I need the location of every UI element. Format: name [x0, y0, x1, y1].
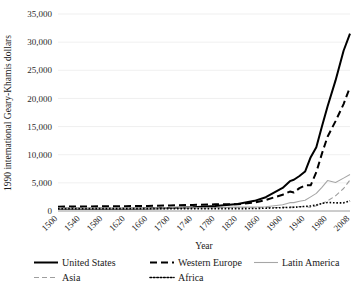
x-tick-label: 1820 — [219, 213, 239, 233]
legend-entry-africa[interactable]: Africa — [150, 272, 204, 283]
legend-label: Latin America — [282, 257, 340, 268]
gridlines — [58, 14, 350, 183]
y-tick-label: 20,000 — [27, 94, 52, 104]
legend-entry-latin-america[interactable]: Latin America — [254, 257, 340, 268]
x-tick-label: 1700 — [152, 213, 172, 233]
x-tick-label: 1780 — [197, 213, 217, 233]
chart-legend: United StatesWestern EuropeLatin America… — [34, 257, 340, 283]
y-tick-label: 15,000 — [27, 122, 52, 132]
legend-label: United States — [62, 257, 116, 268]
x-tick-label: 1740 — [174, 213, 194, 233]
y-tick-label: 35,000 — [27, 9, 52, 19]
data-series-group — [58, 34, 350, 209]
legend-entry-united-states[interactable]: United States — [34, 257, 116, 268]
legend-entry-western-europe[interactable]: Western Europe — [150, 257, 242, 268]
x-tick-label: 1940 — [287, 213, 307, 233]
x-axis-title: Year — [195, 241, 213, 251]
x-axis-tick-labels: 1500154015801620166017001740178018201860… — [40, 213, 352, 233]
x-tick-label: 1500 — [40, 213, 60, 233]
y-tick-label: 5,000 — [32, 178, 53, 188]
legend-label: Western Europe — [178, 257, 242, 268]
x-tick-label: 1580 — [85, 213, 105, 233]
chart-container: 35,00030,00025,00020,00015,00010,0005,00… — [0, 0, 358, 291]
x-tick-label: 1860 — [242, 213, 262, 233]
x-tick-label: 1620 — [107, 213, 127, 233]
y-tick-label: 10,000 — [27, 150, 52, 160]
legend-entry-asia[interactable]: Asia — [34, 272, 81, 283]
series-line-western-europe — [58, 87, 350, 206]
series-line-united-states — [58, 34, 350, 209]
x-tick-label: 1980 — [309, 213, 329, 233]
y-tick-label: 30,000 — [27, 37, 52, 47]
line-chart: 35,00030,00025,00020,00015,00010,0005,00… — [0, 0, 358, 291]
x-tick-label: 1900 — [264, 213, 284, 233]
legend-label: Asia — [62, 272, 81, 283]
series-line-latin-america — [58, 175, 350, 209]
legend-label: Africa — [178, 272, 204, 283]
x-tick-label: 1660 — [129, 213, 149, 233]
series-line-asia — [58, 180, 350, 208]
x-tick-label: 2008 — [332, 213, 352, 233]
x-tick-label: 1540 — [62, 213, 82, 233]
y-axis-tick-labels: 35,00030,00025,00020,00015,00010,0005,00… — [27, 9, 52, 216]
y-axis-title: 1990 international Geary-Khamis dollars — [3, 35, 13, 191]
y-tick-label: 25,000 — [27, 65, 52, 75]
